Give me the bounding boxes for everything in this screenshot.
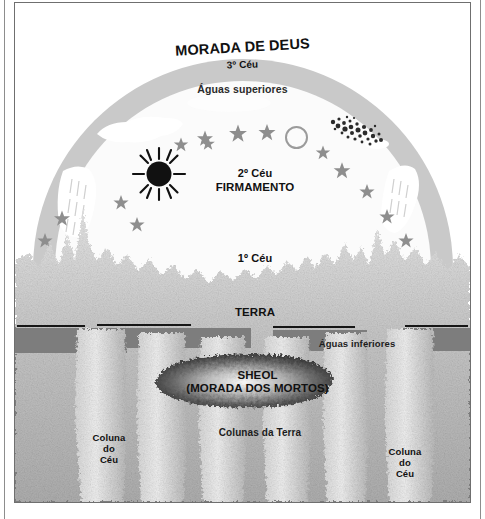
page-rule-right	[480, 0, 481, 519]
page-rule-left	[4, 0, 5, 519]
pillar	[137, 333, 187, 502]
sheol-sublabel: (MORADA DOS MORTOS)	[165, 382, 350, 396]
figure-page: MORADA DE DEUS 3º Céu Águas superiores 2…	[0, 0, 485, 519]
first-heaven-label: 1º Céu	[185, 252, 325, 265]
pillar	[323, 333, 369, 502]
pillar-sky-left	[75, 329, 127, 502]
second-heaven-label: 2º Céu	[185, 167, 325, 180]
pillar-of-heaven-label-left: Coluna do Céu	[77, 432, 141, 466]
pillars-of-earth-label: Colunas da Terra	[175, 427, 345, 439]
upper-waters-label: Águas superiores	[15, 83, 470, 95]
pillar-of-heaven-label-right: Coluna do Céu	[373, 446, 437, 480]
earth-label: TERRA	[185, 306, 325, 320]
firmament-label: FIRMAMENTO	[185, 181, 325, 195]
sheol-label: SHEOL	[180, 369, 335, 383]
diagram-plate: MORADA DE DEUS 3º Céu Águas superiores 2…	[14, 2, 471, 503]
lower-waters-label: Águas inferiores	[297, 338, 417, 349]
